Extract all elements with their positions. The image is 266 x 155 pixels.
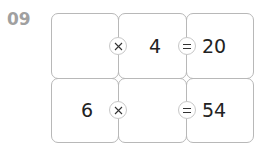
row1-result-value: 20 — [202, 37, 226, 56]
problem-number: 09 — [7, 9, 31, 29]
multiply-icon — [109, 101, 127, 119]
multiply-icon — [109, 37, 127, 55]
row2-a-value: 6 — [81, 101, 93, 120]
row2-cell-b[interactable] — [118, 78, 187, 143]
equals-icon — [178, 37, 196, 55]
row1-b-value: 4 — [149, 37, 161, 56]
equation-grid: 4 20 6 54 — [51, 13, 254, 143]
row2-result-value: 54 — [202, 101, 226, 120]
equals-icon — [178, 101, 196, 119]
